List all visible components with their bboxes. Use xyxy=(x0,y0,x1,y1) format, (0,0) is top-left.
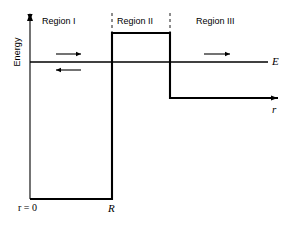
potential-curve xyxy=(30,33,278,199)
potential-energy-diagram: Energy Region I Region II Region III E r… xyxy=(0,0,292,227)
diagram-svg xyxy=(0,0,292,227)
region-2-label: Region II xyxy=(117,17,153,26)
origin-label: r = 0 xyxy=(18,203,37,213)
region-1-label: Region I xyxy=(42,17,76,26)
energy-level-label: E xyxy=(272,56,279,67)
x-axis-label: r xyxy=(272,104,276,115)
y-axis-arrowhead xyxy=(27,13,33,21)
radius-label: R xyxy=(108,203,115,214)
y-axis-label: Energy xyxy=(12,24,22,80)
region-3-label: Region III xyxy=(196,17,235,26)
